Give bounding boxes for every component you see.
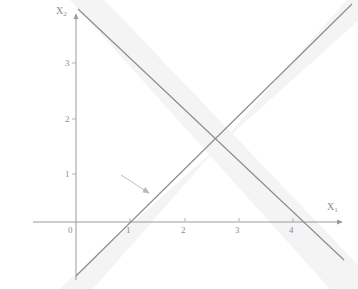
x-axis-label-sub: 1 [334, 206, 338, 214]
y-axis-ticks [72, 63, 76, 174]
x-tick-label-1: 1 [126, 226, 131, 235]
origin-tick-label: 0 [68, 226, 73, 235]
y-tick-label-2: 2 [65, 115, 70, 124]
x-tick-label-4: 4 [289, 226, 294, 235]
x-tick-label-3: 3 [235, 226, 240, 235]
plot-canvas [0, 0, 358, 289]
x-tick-label-2: 2 [181, 226, 186, 235]
y-tick-label-1: 1 [65, 170, 70, 179]
y-axis-label-sub: 2 [63, 10, 67, 18]
y-tick-label-3: 3 [65, 59, 70, 68]
x-axis-label: X1 [327, 202, 338, 212]
pointer-arrow-icon [121, 175, 149, 193]
y-axis-label: X2 [56, 6, 67, 16]
plot-figure: 0 1 2 3 4 1 2 3 X2 X1 [0, 0, 358, 289]
